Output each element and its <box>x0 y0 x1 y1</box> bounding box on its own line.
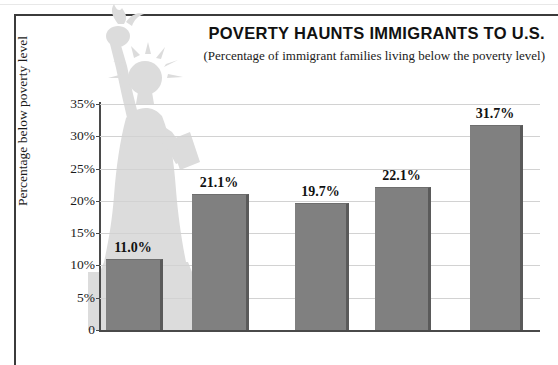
x-axis-line <box>99 330 540 332</box>
bar: 21.1% <box>192 194 249 330</box>
bar-value-label: 19.7% <box>301 184 340 200</box>
y-axis-label: Percentage below poverty level <box>15 36 31 206</box>
gridline <box>100 104 540 105</box>
y-axis-tick-label: 0 <box>88 322 95 338</box>
y-axis-tick-mark <box>96 104 100 105</box>
bar: 11.0% <box>106 259 163 330</box>
y-axis-tick-mark <box>96 233 100 234</box>
y-axis-tick-label: 5% <box>77 290 95 306</box>
bar-value-label: 22.1% <box>382 168 421 184</box>
chart-subtitle: (Percentage of immigrant families living… <box>203 48 545 64</box>
y-axis-tick-mark <box>96 298 100 299</box>
top-hairline <box>0 4 558 5</box>
bar: 19.7% <box>295 203 349 330</box>
y-axis-tick-label: 10% <box>70 257 95 273</box>
y-axis-tick-label: 15% <box>70 225 95 241</box>
y-axis-tick-mark <box>96 136 100 137</box>
bar-value-label: 31.7% <box>476 106 515 122</box>
y-axis-tick-label: 25% <box>70 161 95 177</box>
y-axis-tick-mark <box>96 265 100 266</box>
y-axis-tick-label: 30% <box>70 128 95 144</box>
y-axis-tick-label: 20% <box>70 193 95 209</box>
frame-top-border <box>14 14 558 16</box>
chart-title: POVERTY HAUNTS IMMIGRANTS TO U.S. <box>208 24 545 43</box>
bar: 22.1% <box>375 187 431 330</box>
y-axis-tick-mark <box>96 169 100 170</box>
bar: 31.7% <box>470 125 523 330</box>
bar-value-label: 11.0% <box>114 240 152 256</box>
bar-value-label: 21.1% <box>200 175 239 191</box>
chart-figure: POVERTY HAUNTS IMMIGRANTS TO U.S. (Perce… <box>0 0 558 365</box>
y-axis-tick-mark <box>96 201 100 202</box>
plot-area: 05%10%15%20%25%30%35%11.0%Pre-198021.1%1… <box>100 104 540 330</box>
y-axis-tick-label: 35% <box>70 96 95 112</box>
y-axis-tick-mark <box>96 330 100 331</box>
